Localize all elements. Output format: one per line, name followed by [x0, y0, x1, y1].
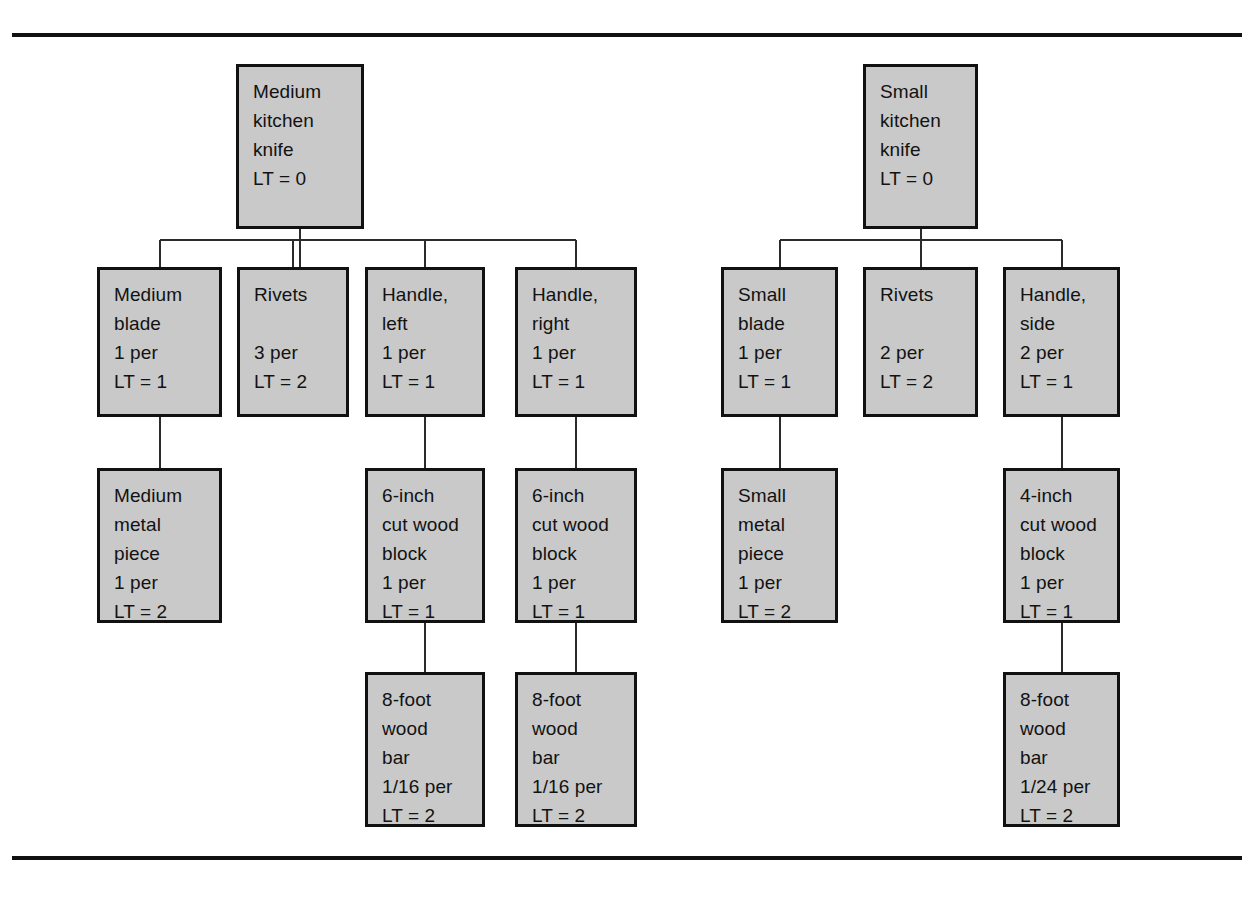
connector-branch-drop — [292, 240, 294, 267]
bom-node-line: right — [532, 309, 634, 338]
bom-node-line: block — [382, 539, 482, 568]
bom-node-line: knife — [880, 135, 975, 164]
bom-node-rivets-small: Rivets 2 perLT = 2 — [863, 267, 978, 417]
connector-child-drop — [159, 417, 161, 468]
bom-node-cut-wood-block-6-left: 6-inchcut woodblock1 perLT = 1 — [365, 468, 485, 623]
bom-node-cut-wood-block-6-right: 6-inchcut woodblock1 perLT = 1 — [515, 468, 637, 623]
bom-node-line: 2 per — [1020, 338, 1117, 367]
bom-node-small-metal-piece: Smallmetalpiece1 perLT = 2 — [721, 468, 838, 623]
bom-node-line: LT = 0 — [880, 164, 975, 193]
bom-node-line: wood — [532, 714, 634, 743]
bom-node-line: blade — [738, 309, 835, 338]
bom-node-wood-bar-8ft-small: 8-footwoodbar1/24 perLT = 2 — [1003, 672, 1120, 827]
bom-node-line: LT = 2 — [738, 597, 835, 626]
bom-node-line: 1/16 per — [532, 772, 634, 801]
bom-node-line: cut wood — [532, 510, 634, 539]
connector-branch-drop — [1061, 240, 1063, 267]
bom-node-line: LT = 1 — [382, 367, 482, 396]
bom-node-line: 3 per — [254, 338, 346, 367]
bom-node-line: wood — [1020, 714, 1117, 743]
bom-node-line: piece — [738, 539, 835, 568]
bom-node-line: LT = 2 — [114, 597, 219, 626]
bom-node-line: 1 per — [382, 338, 482, 367]
bom-node-line: kitchen — [880, 106, 975, 135]
bom-node-line: 1 per — [382, 568, 482, 597]
bom-node-line: left — [382, 309, 482, 338]
bom-node-line: block — [1020, 539, 1117, 568]
bom-node-line: 8-foot — [1020, 685, 1117, 714]
bottom-rule — [12, 856, 1242, 860]
bom-node-line: 1 per — [114, 568, 219, 597]
bom-node-line: cut wood — [382, 510, 482, 539]
bom-node-line: block — [532, 539, 634, 568]
bom-node-line: Handle, — [1020, 280, 1117, 309]
bom-node-line: LT = 2 — [254, 367, 346, 396]
bom-node-line: Small — [738, 481, 835, 510]
connector-root-drop — [299, 229, 301, 267]
bom-node-line: Medium — [114, 280, 219, 309]
connector-branch-drop — [575, 240, 577, 267]
bom-node-line: 8-foot — [532, 685, 634, 714]
bom-node-line: bar — [1020, 743, 1117, 772]
bom-node-line: 1 per — [1020, 568, 1117, 597]
connector-branch-drop — [159, 240, 161, 267]
bom-node-medium-kitchen-knife: MediumkitchenknifeLT = 0 — [236, 64, 364, 229]
connector-branch-drop — [920, 240, 922, 267]
bom-node-line: 1/16 per — [382, 772, 482, 801]
bom-node-line: 6-inch — [532, 481, 634, 510]
bom-node-line: 4-inch — [1020, 481, 1117, 510]
bom-node-line: wood — [382, 714, 482, 743]
bom-node-line: 1/24 per — [1020, 772, 1117, 801]
bom-node-wood-bar-8ft-left: 8-footwoodbar1/16 perLT = 2 — [365, 672, 485, 827]
bom-node-line: cut wood — [1020, 510, 1117, 539]
connector-child-drop — [575, 417, 577, 468]
bom-node-medium-metal-piece: Mediummetalpiece1 perLT = 2 — [97, 468, 222, 623]
bom-node-small-kitchen-knife: SmallkitchenknifeLT = 0 — [863, 64, 978, 229]
bom-node-line: 1 per — [114, 338, 219, 367]
bom-node-medium-blade: Mediumblade1 perLT = 1 — [97, 267, 222, 417]
bom-node-line: bar — [532, 743, 634, 772]
bom-node-line: bar — [382, 743, 482, 772]
connector-branch-drop — [424, 240, 426, 267]
bom-node-line: Rivets — [254, 280, 346, 309]
bom-node-line: 2 per — [880, 338, 975, 367]
bom-node-line: 1 per — [738, 568, 835, 597]
bom-node-line: LT = 1 — [1020, 597, 1117, 626]
bom-node-line: 1 per — [738, 338, 835, 367]
connector-child-drop — [1061, 417, 1063, 468]
bom-node-handle-side: Handle,side2 perLT = 1 — [1003, 267, 1120, 417]
bom-node-line: LT = 0 — [253, 164, 361, 193]
top-rule — [12, 33, 1242, 37]
bom-node-line: metal — [114, 510, 219, 539]
bom-node-line: LT = 1 — [382, 597, 482, 626]
bom-node-line: 8-foot — [382, 685, 482, 714]
bom-node-small-blade: Smallblade1 perLT = 1 — [721, 267, 838, 417]
bom-node-line: LT = 1 — [738, 367, 835, 396]
bom-node-line: 1 per — [532, 568, 634, 597]
bom-node-line: LT = 1 — [532, 597, 634, 626]
connector-child-drop — [575, 623, 577, 672]
bom-node-line: metal — [738, 510, 835, 539]
bom-node-line: LT = 2 — [1020, 801, 1117, 830]
bom-node-line: LT = 1 — [532, 367, 634, 396]
connector-child-drop — [424, 417, 426, 468]
bom-node-line: Small — [880, 77, 975, 106]
bom-node-line: piece — [114, 539, 219, 568]
bom-node-wood-bar-8ft-right: 8-footwoodbar1/16 perLT = 2 — [515, 672, 637, 827]
bom-node-line: Handle, — [532, 280, 634, 309]
bom-node-line: LT = 2 — [880, 367, 975, 396]
bom-node-line: Rivets — [880, 280, 975, 309]
bom-node-line: 1 per — [532, 338, 634, 367]
bom-node-line: LT = 1 — [114, 367, 219, 396]
bom-node-line: Small — [738, 280, 835, 309]
connector-bus — [160, 239, 577, 241]
bom-node-handle-left: Handle,left1 perLT = 1 — [365, 267, 485, 417]
connector-child-drop — [779, 417, 781, 468]
bom-node-line: LT = 1 — [1020, 367, 1117, 396]
connector-child-drop — [424, 623, 426, 672]
bom-node-line: Handle, — [382, 280, 482, 309]
bom-node-line: blade — [114, 309, 219, 338]
bom-node-line: 6-inch — [382, 481, 482, 510]
bom-node-line: kitchen — [253, 106, 361, 135]
bom-node-cut-wood-block-4: 4-inchcut woodblock1 perLT = 1 — [1003, 468, 1120, 623]
